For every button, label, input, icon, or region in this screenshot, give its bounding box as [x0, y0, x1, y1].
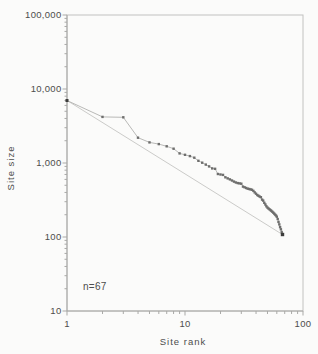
y-tick-label: 10 — [50, 305, 61, 316]
data-point — [172, 148, 174, 150]
rank-size-figure: 100,00010,0001,00010010110100Site sizeSi… — [0, 0, 318, 354]
data-point — [262, 199, 264, 201]
y-axis-ticks — [63, 15, 68, 311]
x-tick-label: 100 — [295, 318, 312, 329]
sample-size-annotation: n=67 — [83, 281, 107, 292]
data-point — [122, 116, 124, 118]
data-point — [279, 226, 281, 228]
data-point — [205, 163, 207, 165]
y-tick-label: 10,000 — [31, 83, 62, 94]
data-point — [211, 167, 213, 169]
data-point — [214, 168, 216, 170]
data-point — [166, 145, 168, 147]
plot-frame — [67, 15, 303, 311]
x-axis-ticks — [67, 311, 303, 316]
data-point — [280, 228, 282, 230]
data-point — [201, 162, 203, 164]
data-point — [178, 152, 180, 154]
reference-line — [67, 100, 282, 234]
rank-size-chart: 100,00010,0001,00010010110100Site sizeSi… — [0, 0, 318, 354]
data-point — [219, 173, 221, 175]
data-point — [278, 223, 280, 225]
data-point-last — [281, 233, 284, 236]
x-tick-label: 10 — [179, 318, 190, 329]
data-point — [260, 196, 262, 198]
y-axis-title: Site size — [5, 146, 16, 191]
data-point — [227, 177, 229, 179]
data-point — [158, 143, 160, 145]
y-tick-label: 100 — [45, 231, 62, 242]
data-point — [229, 178, 231, 180]
data-point — [197, 160, 199, 162]
x-tick-label: 1 — [64, 318, 70, 329]
y-tick-label: 100,000 — [25, 9, 61, 20]
data-point-first — [66, 99, 69, 102]
data-point — [148, 141, 150, 143]
y-tick-label: 1,000 — [36, 157, 61, 168]
data-point — [277, 221, 279, 223]
data-point — [222, 174, 224, 176]
data-point — [184, 154, 186, 156]
data-point — [224, 176, 226, 178]
data-point — [240, 183, 242, 185]
data-point — [277, 218, 279, 220]
data-point — [137, 137, 139, 139]
data-point — [276, 216, 278, 218]
data-point — [101, 116, 103, 118]
x-axis-title: Site rank — [160, 336, 207, 347]
data-point — [208, 165, 210, 167]
data-point — [193, 157, 195, 159]
data-point — [189, 155, 191, 157]
data-point — [217, 173, 219, 175]
